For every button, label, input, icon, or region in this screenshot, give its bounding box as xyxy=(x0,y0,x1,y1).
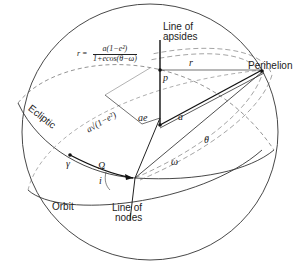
symbol-a: a xyxy=(178,112,183,122)
symbol-vernal-equinox: γ xyxy=(66,159,70,169)
orbital-elements-diagram: Line of apsides Perihelion Ecliptic Orbi… xyxy=(0,0,307,264)
diagram-lines xyxy=(0,0,307,264)
formula-denominator: 1+ecos(θ−ω) xyxy=(93,54,137,63)
orbit-label: Orbit xyxy=(52,202,74,212)
formula-fraction: a(1−e²) 1+ecos(θ−ω) xyxy=(93,45,137,64)
formula-lhs: r = xyxy=(77,50,88,59)
orbit-back xyxy=(28,70,262,190)
celestial-sphere xyxy=(22,4,278,260)
symbol-omega: ω xyxy=(171,157,178,167)
symbol-p: p xyxy=(163,73,168,83)
symbol-Omega: Ω xyxy=(98,161,105,171)
symbol-r: r xyxy=(189,58,193,68)
symbol-ae: ae xyxy=(138,113,147,123)
perihelion-label: Perihelion xyxy=(248,61,292,71)
line-of-apsides-label-2: apsides xyxy=(163,32,197,42)
ecliptic-back xyxy=(18,65,274,150)
symbol-theta: θ xyxy=(204,135,209,145)
orbit-front xyxy=(28,150,262,205)
line-of-nodes-label-2: nodes xyxy=(115,213,142,223)
symbol-inclination: i xyxy=(99,176,102,186)
major-axis xyxy=(160,70,262,125)
